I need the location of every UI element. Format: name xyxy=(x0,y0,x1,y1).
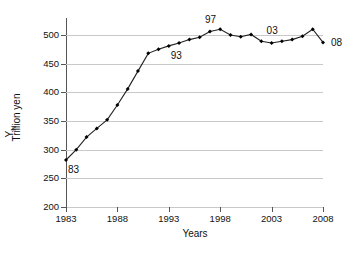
data-point-1995 xyxy=(187,38,191,42)
x-axis-title: Years xyxy=(66,228,324,239)
data-point-2000 xyxy=(239,35,243,39)
series-svg xyxy=(0,0,356,262)
data-point-2004 xyxy=(280,39,284,43)
chart-figure: Trillion yen YN 200250300350400450500 19… xyxy=(0,0,356,262)
data-point-2005 xyxy=(290,38,294,42)
data-point-1993 xyxy=(167,44,171,48)
series-markers-group xyxy=(64,27,325,162)
series-line-nominal-gdp xyxy=(66,29,323,160)
data-point-1994 xyxy=(177,41,181,45)
data-point-2003 xyxy=(270,41,274,45)
data-point-1992 xyxy=(157,47,161,51)
